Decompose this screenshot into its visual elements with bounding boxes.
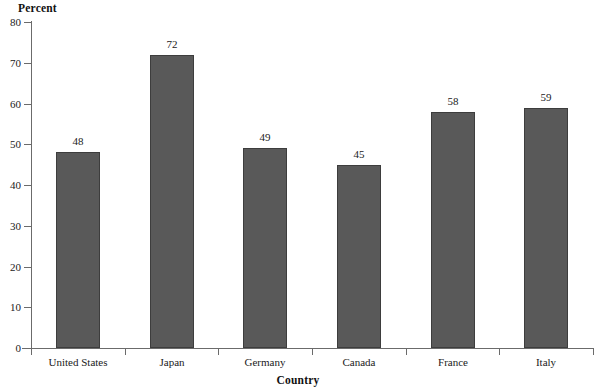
y-axis-tick-label: 50 xyxy=(1,138,21,150)
bar xyxy=(431,112,475,348)
x-axis-tick xyxy=(218,348,219,355)
bar xyxy=(150,55,194,348)
y-axis-tick-label: 30 xyxy=(1,220,21,232)
bar xyxy=(524,108,568,348)
x-axis-tick xyxy=(125,348,126,355)
x-axis-title: Country xyxy=(0,374,596,386)
y-axis-tick xyxy=(24,307,31,308)
y-axis-line xyxy=(31,21,32,349)
x-axis-tick xyxy=(31,348,32,355)
y-axis-tick-label: 60 xyxy=(1,98,21,110)
x-axis-tick xyxy=(593,348,594,355)
bar-value-label: 72 xyxy=(142,38,202,50)
x-axis-tick xyxy=(499,348,500,355)
bar-value-label: 45 xyxy=(329,148,389,160)
y-axis-tick xyxy=(24,185,31,186)
bar-value-label: 48 xyxy=(48,135,108,147)
y-axis-tick-label: 40 xyxy=(1,179,21,191)
y-axis-title: Percent xyxy=(18,2,57,14)
y-axis-tick xyxy=(24,104,31,105)
y-axis-tick-label: 0 xyxy=(1,342,21,354)
y-axis-tick xyxy=(24,144,31,145)
y-axis-tick xyxy=(24,22,31,23)
category-label: Italy xyxy=(491,356,596,368)
y-axis-tick xyxy=(24,267,31,268)
y-axis-tick-label: 10 xyxy=(1,301,21,313)
x-axis-line xyxy=(22,348,593,349)
x-axis-tick xyxy=(312,348,313,355)
bar xyxy=(337,165,381,348)
bar xyxy=(56,152,100,348)
y-axis-tick-label: 20 xyxy=(1,261,21,273)
y-axis-tick xyxy=(24,226,31,227)
bar-value-label: 59 xyxy=(516,91,576,103)
bar-chart: Percent Country 01020304050607080 487249… xyxy=(0,0,596,392)
y-axis-tick-label: 70 xyxy=(1,57,21,69)
bar-value-label: 49 xyxy=(235,131,295,143)
x-axis-tick xyxy=(406,348,407,355)
bar-value-label: 58 xyxy=(423,95,483,107)
y-axis-tick-label: 80 xyxy=(1,16,21,28)
bar xyxy=(243,148,287,348)
y-axis-tick xyxy=(24,348,31,349)
y-axis-tick xyxy=(24,63,31,64)
